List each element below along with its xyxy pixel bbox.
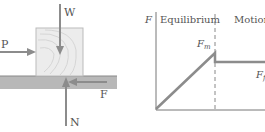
- ff-label: Ff: [255, 69, 265, 82]
- y-axis-label: F: [144, 14, 153, 25]
- normal-label: N: [70, 116, 80, 129]
- fm-label: Fm: [196, 38, 211, 51]
- weight-label: W: [64, 6, 76, 19]
- friction-curve: [156, 53, 265, 109]
- push-label: P: [1, 38, 9, 51]
- motion-label: Motion: [234, 14, 265, 25]
- equilibrium-label: Equilibrium: [160, 14, 221, 25]
- friction-label: F: [100, 88, 108, 101]
- push-arrowhead: [27, 48, 36, 56]
- friction-figure: W P F N F Equilibrium Motion Fm Ff: [0, 0, 265, 132]
